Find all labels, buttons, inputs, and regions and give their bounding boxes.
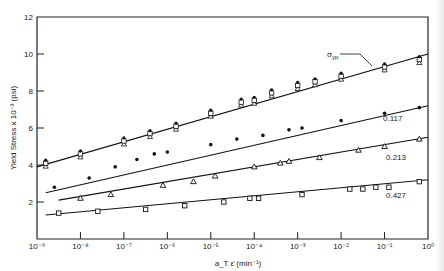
marker-dot [383, 62, 386, 65]
marker-dot [44, 159, 47, 162]
marker-dot [339, 119, 343, 123]
y-tick-label: 12 [24, 13, 33, 22]
marker-dot [153, 152, 157, 156]
marker-dot [174, 122, 177, 125]
marker-square [300, 192, 304, 196]
marker-dot [235, 137, 239, 141]
plot-border [37, 17, 428, 239]
curve-label-0213: 0.213 [386, 153, 407, 162]
y-tick-label: 10 [24, 50, 33, 59]
x-tick-label: 10⁻⁶ [159, 242, 175, 251]
series--yp [37, 54, 428, 168]
marker-dot [240, 98, 243, 101]
marker-square [348, 187, 352, 191]
marker-dot [209, 109, 212, 112]
marker-dot [166, 150, 170, 154]
marker-dot [122, 136, 125, 139]
y-tick-label: 4 [29, 161, 34, 170]
series-0-427 [46, 179, 428, 215]
fit-line [59, 137, 428, 200]
x-tick-label: 10⁻² [333, 242, 349, 251]
x-tick-label: 10⁻¹ [377, 242, 393, 251]
marker-square [387, 185, 391, 189]
yield-stress-chart: 24681012 10⁻⁹10⁻⁸10⁻⁷10⁻⁶10⁻⁵10⁻⁴10⁻³10⁻… [0, 0, 444, 271]
y-tick-label: 8 [29, 87, 34, 96]
marker-square [417, 179, 421, 183]
marker-dot [418, 106, 422, 110]
series-layer: σyp0.1170.2130.427 [37, 50, 428, 215]
marker-square [248, 196, 252, 200]
marker-square [361, 187, 365, 191]
marker-dot [270, 88, 273, 91]
marker-dot [253, 96, 256, 99]
marker-square [256, 196, 260, 200]
marker-dot [53, 185, 57, 189]
marker-dot [87, 176, 91, 180]
curve-label-yield-point: σyp [327, 50, 339, 60]
marker-dot [296, 81, 299, 84]
page-edge-shadow [436, 0, 444, 271]
plot-frame [37, 17, 428, 239]
series-0-213 [59, 136, 428, 200]
marker-dot [300, 126, 304, 130]
fit-line [46, 180, 428, 215]
marker-dot [418, 55, 421, 58]
marker-dot [313, 77, 316, 80]
marker-square [183, 204, 187, 208]
y-tick-label: 2 [29, 198, 34, 207]
marker-triangle [108, 192, 114, 197]
x-tick-label: 10⁻⁴ [246, 242, 263, 251]
fit-line [46, 106, 428, 193]
x-tick-label: 10⁻⁵ [203, 242, 219, 251]
marker-dot [209, 143, 213, 147]
label-leader-line [340, 54, 372, 66]
marker-square [374, 185, 378, 189]
x-axis-label: a_T ε̇ (min⁻¹) [215, 259, 262, 268]
marker-square [57, 211, 61, 215]
y-tick-label: 6 [29, 124, 34, 133]
x-tick-label: 10⁰ [422, 242, 434, 251]
marker-dot [287, 128, 291, 132]
series-0-117 [46, 106, 428, 193]
curve-label-0117: 0.117 [383, 114, 403, 123]
marker-dot [79, 149, 82, 152]
marker-dot [113, 165, 117, 169]
x-axis: 10⁻⁹10⁻⁸10⁻⁷10⁻⁶10⁻⁵10⁻⁴10⁻³10⁻²10⁻¹10⁰ [29, 232, 434, 251]
x-tick-label: 10⁻⁸ [72, 242, 88, 251]
marker-triangle [191, 179, 197, 184]
marker-dot [261, 134, 265, 138]
y-axis: 24681012 [24, 13, 44, 207]
curve-label-0427: 0.427 [386, 191, 407, 200]
x-tick-label: 10⁻⁷ [116, 242, 132, 251]
x-tick-label: 10⁻³ [290, 242, 306, 251]
marker-dot [135, 158, 139, 162]
marker-square [143, 207, 147, 211]
marker-square [96, 209, 100, 213]
y-axis-label: Yield Stress x 10⁻³ (psi) [9, 86, 18, 171]
marker-dot [148, 129, 151, 132]
marker-dot [340, 72, 343, 75]
x-tick-label: 10⁻⁹ [29, 242, 45, 251]
marker-square [222, 200, 226, 204]
